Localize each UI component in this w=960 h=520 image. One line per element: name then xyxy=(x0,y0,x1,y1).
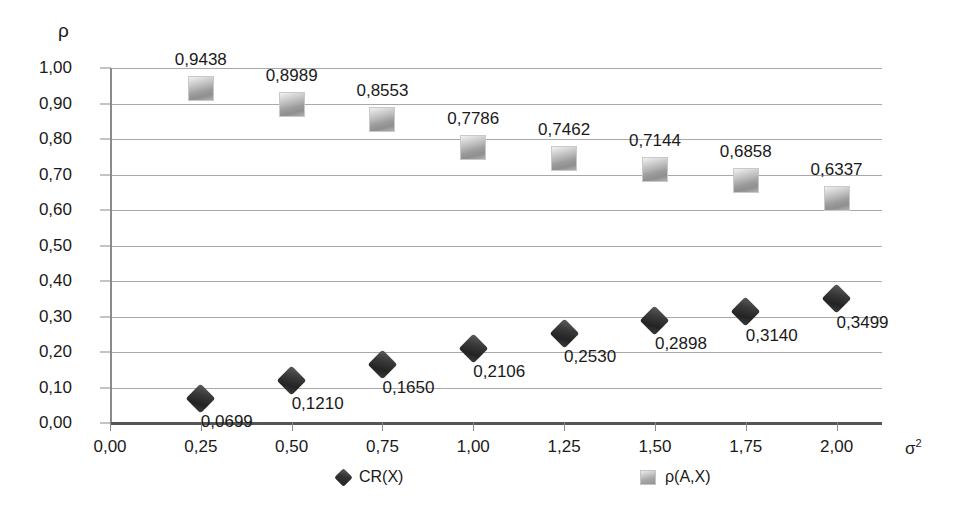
data-point xyxy=(551,146,577,171)
data-point xyxy=(733,168,759,193)
y-axis-line xyxy=(110,68,112,425)
y-axis-tick-label: 0,40 xyxy=(2,271,72,291)
gridline xyxy=(110,388,882,389)
chart-legend: CR(X) ρ(A,X) xyxy=(0,468,960,498)
data-point xyxy=(822,284,852,314)
diamond-marker-icon xyxy=(334,468,352,486)
y-axis-title: ρ xyxy=(58,20,69,42)
y-axis-tick-label: 0,70 xyxy=(2,165,72,185)
data-point xyxy=(824,186,850,211)
x-axis-tick-mark xyxy=(564,422,565,431)
square-marker-icon xyxy=(640,470,656,485)
y-axis-tick-label: 0,80 xyxy=(2,129,72,149)
y-axis-tick-label: 0,60 xyxy=(2,200,72,220)
data-point-label: 0,0699 xyxy=(172,412,282,432)
y-axis-tick-label: 0,10 xyxy=(2,378,72,398)
y-axis-tick-label: 0,30 xyxy=(2,307,72,327)
data-point xyxy=(549,318,579,348)
gridline xyxy=(110,104,882,105)
x-axis-title: σ2 xyxy=(905,437,922,459)
gridline xyxy=(110,352,882,353)
y-axis-tick-label: 0,20 xyxy=(2,342,72,362)
x-axis-tick-label: 0,50 xyxy=(252,437,332,457)
data-point-label: 0,8553 xyxy=(327,81,437,101)
y-axis-tick-label: 0,90 xyxy=(2,94,72,114)
x-axis-tick-label: 1,25 xyxy=(524,437,604,457)
x-axis-tick-mark xyxy=(110,422,111,431)
legend-label: ρ(A,X) xyxy=(665,468,711,486)
x-axis-tick-label: 1,75 xyxy=(706,437,786,457)
x-axis-tick-label: 1,50 xyxy=(615,437,695,457)
legend-item-cr-x[interactable]: CR(X) xyxy=(337,468,403,486)
legend-item-rho-a-x[interactable]: ρ(A,X) xyxy=(640,468,711,486)
x-axis-tick-mark xyxy=(655,422,656,431)
x-axis-tick-label: 0,00 xyxy=(70,437,150,457)
x-axis-tick-label: 2,00 xyxy=(797,437,877,457)
y-axis-tick-label: 1,00 xyxy=(2,58,72,78)
data-point xyxy=(368,350,398,380)
data-point xyxy=(642,157,668,182)
data-point xyxy=(369,107,395,132)
scatter-chart: ρ σ2 1,000,900,800,700,600,500,400,300,2… xyxy=(0,0,960,520)
y-axis-tick-label: 0,00 xyxy=(2,413,72,433)
x-axis-tick-mark xyxy=(473,422,474,431)
data-point xyxy=(279,92,305,117)
gridline xyxy=(110,317,882,318)
x-axis-tick-label: 0,25 xyxy=(161,437,241,457)
data-point-label: 0,3499 xyxy=(808,313,918,333)
y-axis-tick-label: 0,50 xyxy=(2,236,72,256)
x-axis-tick-label: 1,00 xyxy=(433,437,513,457)
gridline xyxy=(110,139,882,140)
data-point xyxy=(640,305,670,335)
x-axis-tick-mark xyxy=(382,422,383,431)
data-point xyxy=(188,76,214,101)
data-point-label: 0,6858 xyxy=(691,142,801,162)
gridline xyxy=(110,210,882,211)
x-axis-tick-mark xyxy=(292,422,293,431)
x-axis-title-base: σ xyxy=(905,439,916,458)
data-point xyxy=(731,297,761,327)
data-point-label: 0,6337 xyxy=(782,160,892,180)
data-point xyxy=(458,333,488,363)
data-point xyxy=(277,365,307,395)
x-axis-tick-label: 0,75 xyxy=(342,437,422,457)
gridline xyxy=(110,246,882,247)
legend-label: CR(X) xyxy=(359,468,403,486)
gridline xyxy=(110,281,882,282)
x-axis-title-exponent: 2 xyxy=(916,437,922,449)
x-axis-tick-mark xyxy=(837,422,838,431)
x-axis-tick-mark xyxy=(746,422,747,431)
gridline xyxy=(110,175,882,176)
data-point xyxy=(460,135,486,160)
